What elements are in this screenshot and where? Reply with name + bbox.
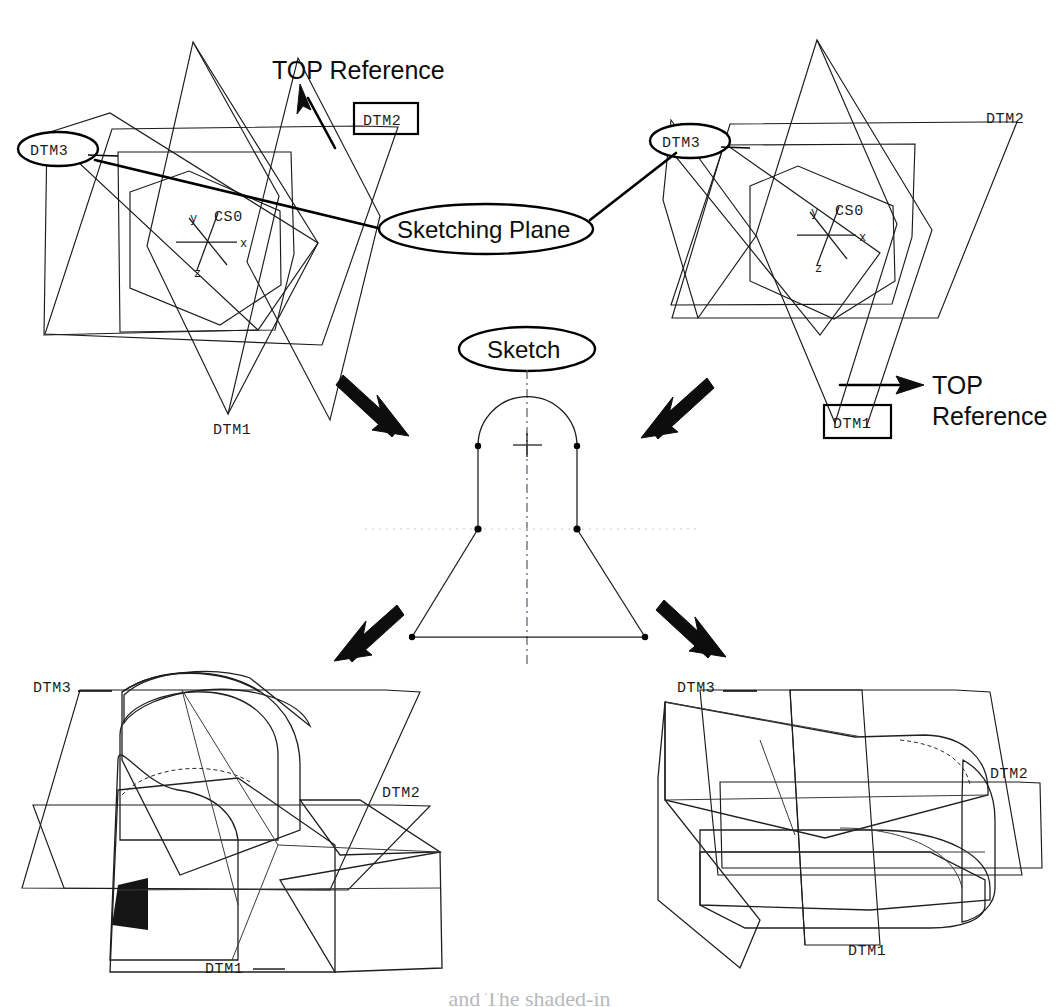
top-reference-arrow-left-shaft [308,98,335,148]
balloon-dtm3-left-text: DTM3 [30,143,68,160]
sketch-arrow-lower-left [334,605,404,662]
solid-right-plane-dtm1 [790,690,880,945]
panel-bottom-right-solid: DTM3 DTM2 DTM1 [658,680,1042,968]
label-dtm1-left: DTM1 [213,422,251,439]
solid-left-interior-edge-a [182,690,278,845]
panel-top-right-datums: y x z CS0 DTM3 DTM2 DTM1 [650,40,1047,438]
solid-left-label-dtm1: DTM1 [205,961,243,978]
sketch-vertex [574,443,580,449]
solid-left-interior-edge-b [182,690,238,905]
solid-right-edge-c [760,740,795,835]
solid-right-edge-d [665,702,862,737]
solid-left-interior-edge-d [278,845,440,852]
solid-right-label-dtm3: DTM3 [677,680,715,697]
label-dtm2-right-group: DTM2 [986,111,1024,128]
sketch-arrow-upper-right [641,378,714,439]
sketch-arrow-upper-left [336,375,409,437]
panel-bottom-left-solid: DTM3 DTM2 DTM1 [22,671,442,978]
solid-left-top-cap [124,671,310,726]
sketch-vertex [409,634,415,640]
cs0-name-left: CS0 [214,209,243,226]
box-dtm1-right-text: DTM1 [833,416,871,433]
sketch-vertex [642,634,648,640]
solid-right-plane-dtm1-b [790,690,805,945]
sketching-plane-text: Sketching Plane [397,216,570,243]
solid-left-front-face [110,755,238,960]
sketch-vertex [475,443,481,449]
sketch-text: Sketch [487,336,560,363]
solid-right-edge-a [665,795,988,800]
top-reference-label-right-line1: TOP [932,371,983,399]
solid-right-label-dtm2-group: DTM2 [990,766,1028,783]
cs0-label-x-right: x [859,231,867,245]
box-dtm2-left-text: DTM2 [363,113,401,130]
solid-left-wedge-dark [110,778,335,972]
sketch-right-flare [577,529,645,637]
top-reference-label-left: TOP Reference [272,56,445,84]
label-dtm2-right: DTM2 [986,111,1024,128]
flow-arrows [334,375,726,662]
solid-right-hidden-arc-top [900,740,970,785]
solid-left-plane-dtm2 [33,805,430,890]
cs0-label-x-left: x [240,237,248,251]
sketch-vertex [474,525,481,532]
plane-dtm1-right [756,40,897,423]
cut-off-caption: and The shaded-in [0,993,1059,1007]
sketching-plane-leader-right [590,153,676,220]
cs0-label-y-left: y [190,212,198,226]
cs0-label-y-right: y [811,206,819,220]
plane-dtm1-right-b [817,40,932,428]
solid-right-label-dtm1-group: DTM1 [848,943,886,960]
plane-dtm3-right [664,142,880,335]
balloon-sketch[interactable]: Sketch [459,327,595,371]
solid-right-label-dtm1: DTM1 [848,943,886,960]
solid-right-front-face [700,830,990,910]
solid-left-cyl-face [120,692,278,840]
panel-top-left-datums: y x z CS0 DTM3 DTM2 DTM1 TOP Reference [18,42,445,439]
solid-left-hump [122,673,300,875]
solid-right-label-dtm2: DTM2 [990,766,1028,783]
plane-dtm2-left [45,126,398,345]
cs0-label-z-left: z [194,267,202,281]
balloon-sketching-plane[interactable]: Sketching Plane [95,153,676,254]
cs0-label-z-right: z [815,262,823,276]
cs0-name-right: CS0 [835,203,864,220]
solid-left-interior-edge-c [232,845,278,960]
solid-right-top-slab [665,702,988,838]
solid-right-arc-mid [840,828,962,888]
balloon-dtm3-right-text: DTM3 [662,135,700,152]
coordinate-system-cs0-right: y x z CS0 [797,203,867,276]
solid-left-shadow-sliver [112,878,148,930]
coordinate-system-cs0-left: y x z CS0 [176,209,248,281]
box-dtm1-right[interactable]: DTM1 [824,405,891,438]
solid-left-label-dtm3: DTM3 [33,680,71,697]
box-dtm2-left[interactable]: DTM2 [354,103,418,134]
solid-left-label-dtm3-group: DTM3 [33,680,112,697]
sketch-arrow-lower-right [656,600,726,658]
solid-left-label-dtm2: DTM2 [382,785,420,802]
solid-left-label-dtm1-group: DTM1 [205,961,285,978]
plane-aux-left [247,58,380,420]
top-reference-label-right-line2: Reference [932,402,1047,430]
solid-left-label-dtm2-group: DTM2 [382,785,420,802]
solid-left-wing-lower [280,852,442,972]
solid-right-label-dtm3-group: DTM3 [677,680,757,697]
solid-right-lower-mass [700,852,985,928]
sketch-left-flare [412,529,478,637]
balloon-dtm3-right[interactable]: DTM3 [650,124,750,158]
plane-hex-right [750,166,895,319]
sketch-vertex [573,525,580,532]
panel-center-sketch: Sketch [365,327,700,665]
